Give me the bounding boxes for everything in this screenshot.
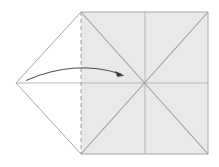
origami-diagram xyxy=(0,0,219,167)
origami-figure-svg xyxy=(0,0,219,167)
